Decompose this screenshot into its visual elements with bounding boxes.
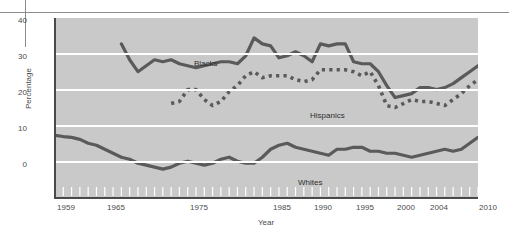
gridline-20	[55, 125, 478, 127]
y-axis-line	[54, 18, 56, 198]
y-tick-label-0: 0	[3, 161, 27, 169]
gridline-40	[55, 53, 478, 55]
x-tick-label-2010: 2010	[479, 203, 497, 212]
gridline-30	[55, 89, 478, 91]
x-tick-marks	[55, 187, 478, 196]
y-tick-label-30: 30	[3, 53, 27, 61]
chart-figure: Percentage 0 10 20 30 40 Blacks Hispanic…	[0, 0, 509, 249]
x-tick-label-1965: 1965	[107, 203, 125, 212]
x-tick-label-1990: 1990	[314, 203, 332, 212]
y-tick-label-40: 40	[3, 17, 27, 25]
x-tick-label-1975: 1975	[190, 203, 208, 212]
top-rule-divider	[0, 12, 509, 13]
x-tick-label-1995: 1995	[356, 203, 374, 212]
x-tick-label-1959: 1959	[57, 203, 75, 212]
x-tick-label-2000: 2000	[397, 203, 415, 212]
series-lines	[55, 18, 478, 197]
y-tick-label-10: 10	[3, 125, 27, 133]
gridline-10	[55, 161, 478, 163]
series-label-hispanics: Hispanics	[310, 111, 345, 120]
x-tick-label-2004: 2004	[430, 203, 448, 212]
y-tick-label-20: 20	[3, 89, 27, 97]
x-axis-line	[54, 197, 478, 199]
plot-area: Blacks Hispanics Whites	[55, 18, 478, 197]
x-axis-title: Year	[258, 218, 274, 227]
series-line-whites	[55, 135, 478, 169]
series-label-whites: Whites	[298, 178, 322, 187]
series-label-blacks: Blacks	[194, 59, 218, 68]
x-tick-label-1985: 1985	[273, 203, 291, 212]
